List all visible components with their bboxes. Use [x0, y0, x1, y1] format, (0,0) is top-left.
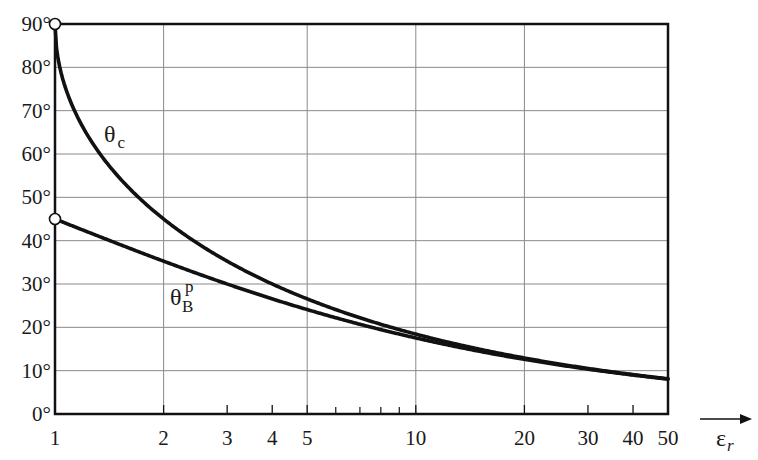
theta-b-curve [55, 219, 668, 379]
x-axis-arrow [700, 414, 752, 424]
plot-frame [55, 24, 668, 414]
chart: 1234510203040500°10°20°30°40°50°60°70°80… [0, 0, 758, 460]
x-tick-label: 20 [514, 426, 535, 450]
x-tick-label: 30 [577, 426, 598, 450]
x-tick-label: 5 [302, 426, 313, 450]
x-axis-label: εr [716, 425, 734, 455]
ticks [55, 405, 668, 414]
theta-b-label: θ [170, 284, 182, 310]
x-tick-label: 10 [405, 426, 426, 450]
y-tick-label: 60° [22, 142, 51, 166]
y-tick-label: 40° [22, 229, 51, 253]
y-tick-label: 20° [22, 315, 51, 339]
y-tick-label: 70° [22, 99, 51, 123]
y-tick-label: 80° [22, 55, 51, 79]
theta-b-sup: p [185, 277, 194, 296]
x-tick-label: 1 [50, 426, 61, 450]
y-tick-label: 30° [22, 272, 51, 296]
theta-b-sub: B [182, 297, 193, 316]
axes [50, 19, 669, 415]
y-tick-label: 90° [22, 12, 51, 36]
theta-c-label: θc [104, 121, 126, 152]
y-tick-label: 10° [22, 359, 51, 383]
grid [55, 24, 668, 414]
x-tick-label: 50 [658, 426, 679, 450]
open-circle-marker [50, 214, 61, 225]
x-tick-label: 4 [267, 426, 278, 450]
x-tick-label: 3 [222, 426, 233, 450]
y-tick-label: 50° [22, 185, 51, 209]
x-tick-label: 2 [158, 426, 169, 450]
y-tick-label: 0° [32, 402, 51, 426]
curves [55, 24, 668, 379]
x-tick-label: 40 [623, 426, 644, 450]
labels: 1234510203040500°10°20°30°40°50°60°70°80… [22, 12, 679, 450]
open-circle-marker [50, 19, 61, 30]
